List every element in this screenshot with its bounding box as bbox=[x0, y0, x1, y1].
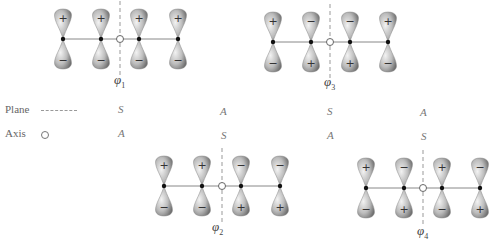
plane-dashed-line-icon bbox=[41, 110, 77, 111]
carbon-atom-dot bbox=[348, 40, 352, 44]
phase-sign-bottom: + bbox=[306, 57, 315, 70]
phase-sign-bottom: − bbox=[268, 57, 277, 70]
carbon-atom-dot bbox=[478, 186, 482, 190]
plane-symmetry-phi4: A bbox=[420, 106, 427, 118]
axis-legend-label: Axis bbox=[5, 127, 26, 139]
phi2-label: φ2 bbox=[212, 219, 223, 237]
axis-symmetry-phi4: S bbox=[421, 130, 427, 142]
phase-sign-bottom: − bbox=[437, 203, 446, 216]
phase-sign-top: + bbox=[134, 12, 143, 25]
phase-sign-top: + bbox=[96, 12, 105, 25]
phase-sign-bottom: − bbox=[383, 57, 392, 70]
plane-symmetry-phi1: S bbox=[118, 103, 124, 115]
phase-sign-bottom: + bbox=[345, 57, 354, 70]
phase-sign-top: + bbox=[383, 15, 392, 28]
plane-legend-label: Plane bbox=[5, 103, 29, 115]
phase-sign-top: + bbox=[437, 161, 446, 174]
carbon-atom-dot bbox=[99, 37, 103, 41]
phase-sign-top: − bbox=[306, 15, 315, 28]
phase-sign-top: + bbox=[268, 15, 277, 28]
orbital-φ2: +−+−−+−+ bbox=[156, 148, 289, 224]
carbon-atom-dot bbox=[440, 186, 444, 190]
axis-symmetry-phi1: A bbox=[118, 127, 125, 139]
axis-symmetry-phi3: A bbox=[327, 129, 334, 141]
phase-sign-bottom: − bbox=[197, 201, 206, 214]
phase-sign-top: + bbox=[197, 159, 206, 172]
c2-axis-circle-icon bbox=[327, 39, 334, 46]
carbon-atom-dot bbox=[278, 184, 282, 188]
phase-sign-bottom: + bbox=[275, 201, 284, 214]
phase-sign-bottom: − bbox=[96, 54, 105, 67]
carbon-atom-dot bbox=[364, 186, 368, 190]
phase-sign-top: − bbox=[236, 159, 245, 172]
phase-sign-bottom: + bbox=[236, 201, 245, 214]
phase-sign-bottom: − bbox=[173, 54, 182, 67]
c2-axis-circle-icon bbox=[117, 36, 124, 43]
phase-sign-top: + bbox=[58, 12, 67, 25]
carbon-atom-dot bbox=[61, 37, 65, 41]
phase-sign-top: + bbox=[361, 161, 370, 174]
plane-symmetry-phi3: S bbox=[327, 105, 333, 117]
plane-symmetry-phi2: A bbox=[220, 105, 227, 117]
phi1-label: φ1 bbox=[114, 72, 125, 90]
orbital-diagram: +−+−+−+−+−+−−+−++−−+−++−+−−++−−+ bbox=[0, 0, 495, 242]
orbital-φ4: +−−++−−+ bbox=[358, 150, 489, 226]
phase-sign-top: − bbox=[399, 161, 408, 174]
phi3-label: φ3 bbox=[324, 74, 335, 92]
phase-sign-bottom: − bbox=[361, 203, 370, 216]
phase-sign-bottom: + bbox=[399, 203, 408, 216]
phase-sign-top: + bbox=[159, 159, 168, 172]
phase-sign-bottom: − bbox=[134, 54, 143, 67]
axis-symmetry-phi2: S bbox=[221, 129, 227, 141]
phase-sign-top: − bbox=[345, 15, 354, 28]
phase-sign-bottom: − bbox=[159, 201, 168, 214]
phase-sign-top: − bbox=[275, 159, 284, 172]
phase-sign-bottom: − bbox=[58, 54, 67, 67]
carbon-atom-dot bbox=[200, 184, 204, 188]
carbon-atom-dot bbox=[239, 184, 243, 188]
carbon-atom-dot bbox=[176, 37, 180, 41]
phase-sign-top: − bbox=[475, 161, 484, 174]
carbon-atom-dot bbox=[162, 184, 166, 188]
phi4-label: φ4 bbox=[417, 223, 428, 241]
orbital-φ1: +−+−+−+− bbox=[55, 1, 187, 77]
axis-circle-icon bbox=[41, 131, 49, 139]
carbon-atom-dot bbox=[386, 40, 390, 44]
carbon-atom-dot bbox=[137, 37, 141, 41]
carbon-atom-dot bbox=[402, 186, 406, 190]
carbon-atom-dot bbox=[309, 40, 313, 44]
phase-sign-bottom: + bbox=[475, 203, 484, 216]
phase-sign-top: + bbox=[173, 12, 182, 25]
carbon-atom-dot bbox=[271, 40, 275, 44]
orbital-φ3: +−−+−++− bbox=[265, 4, 397, 80]
c2-axis-circle-icon bbox=[219, 183, 226, 190]
c2-axis-circle-icon bbox=[420, 185, 427, 192]
